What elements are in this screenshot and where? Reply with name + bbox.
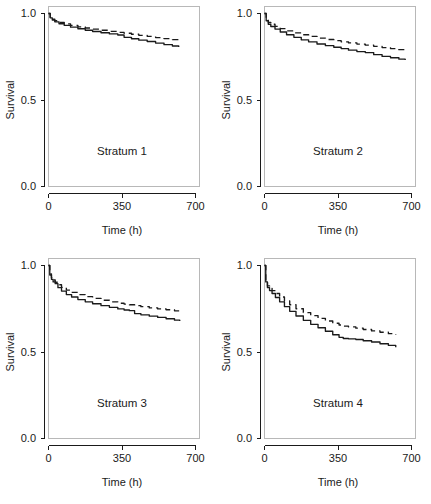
panel-label-stratum-4: Stratum 4	[313, 397, 363, 409]
curve-observed	[265, 14, 406, 61]
curve-predicted	[265, 266, 396, 335]
panel-1-plot: 1.0 0.5 0.0 0 350 700 Survival Time (h) …	[0, 0, 215, 252]
y-axis-title: Survival	[220, 332, 232, 371]
y-tick-label-0.0: 0.0	[237, 432, 252, 444]
figure-canvas: 1.0 0.5 0.0 0 350 700 Survival Time (h) …	[0, 0, 431, 504]
x-tick-label-700: 700	[402, 452, 420, 464]
x-tick-label-0: 0	[261, 452, 267, 464]
y-axis-title: Survival	[220, 80, 232, 119]
x-tick-label-700: 700	[186, 200, 204, 212]
x-axis-title: Time (h)	[318, 476, 359, 488]
y-tick-label-0.0: 0.0	[237, 180, 252, 192]
y-tick-label-0.5: 0.5	[21, 94, 36, 106]
panel-stratum-4: 1.0 0.5 0.0 0 350 700 Survival Time (h) …	[216, 252, 431, 504]
curve-predicted	[49, 14, 179, 41]
y-tick-label-0.0: 0.0	[21, 432, 36, 444]
x-tick-label-700: 700	[186, 452, 204, 464]
panel-stratum-1: 1.0 0.5 0.0 0 350 700 Survival Time (h) …	[0, 0, 215, 252]
x-tick-label-700: 700	[402, 200, 420, 212]
y-tick-label-1.0: 1.0	[21, 7, 36, 19]
x-tick-label-0: 0	[45, 452, 51, 464]
y-tick-label-0.0: 0.0	[21, 180, 36, 192]
x-tick-label-350: 350	[329, 452, 347, 464]
panel-stratum-3: 1.0 0.5 0.0 0 350 700 Survival Time (h) …	[0, 252, 215, 504]
x-tick-label-350: 350	[113, 200, 131, 212]
y-tick-label-0.5: 0.5	[21, 346, 36, 358]
curve-observed	[265, 266, 396, 348]
x-tick-label-350: 350	[329, 200, 347, 212]
x-axis-title: Time (h)	[102, 476, 143, 488]
y-tick-label-0.5: 0.5	[237, 94, 252, 106]
panel-4-plot: 1.0 0.5 0.0 0 350 700 Survival Time (h) …	[216, 252, 431, 504]
y-axis-title: Survival	[4, 80, 16, 119]
panel-stratum-2: 1.0 0.5 0.0 0 350 700 Survival Time (h) …	[216, 0, 431, 252]
panel-2-plot: 1.0 0.5 0.0 0 350 700 Survival Time (h) …	[216, 0, 431, 252]
plot-box-border	[49, 259, 200, 439]
panel-3-plot: 1.0 0.5 0.0 0 350 700 Survival Time (h) …	[0, 252, 215, 504]
x-tick-label-0: 0	[261, 200, 267, 212]
curve-predicted	[49, 266, 180, 312]
panel-label-stratum-3: Stratum 3	[97, 397, 147, 409]
plot-box-border	[265, 259, 416, 439]
y-tick-label-1.0: 1.0	[237, 7, 252, 19]
panel-label-stratum-1: Stratum 1	[97, 145, 147, 157]
y-tick-label-1.0: 1.0	[237, 259, 252, 271]
y-tick-label-0.5: 0.5	[237, 346, 252, 358]
x-axis-title: Time (h)	[102, 224, 143, 236]
y-axis-title: Survival	[4, 332, 16, 371]
y-tick-label-1.0: 1.0	[21, 259, 36, 271]
x-tick-label-0: 0	[45, 200, 51, 212]
x-tick-label-350: 350	[113, 452, 131, 464]
curve-observed	[49, 14, 179, 48]
panel-label-stratum-2: Stratum 2	[313, 145, 363, 157]
x-axis-title: Time (h)	[318, 224, 359, 236]
curve-observed	[49, 266, 180, 322]
